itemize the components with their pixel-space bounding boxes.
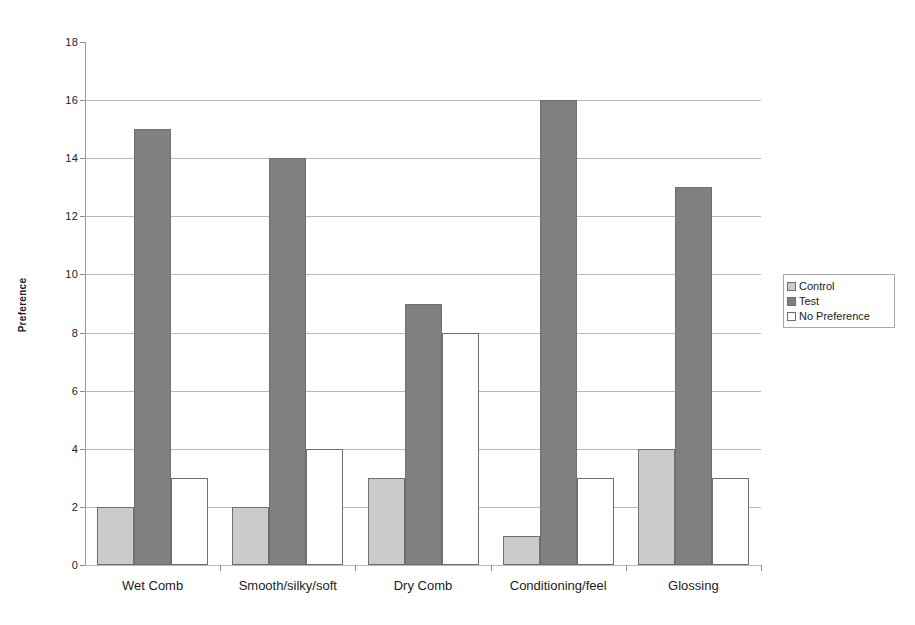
y-axis-tick-mark: [80, 565, 85, 566]
x-axis-tick-mark: [355, 565, 356, 571]
gridline: [85, 565, 761, 566]
x-axis-category-label: Conditioning/feel: [491, 578, 626, 593]
x-axis-category-label: Smooth/silky/soft: [220, 578, 355, 593]
bar: [171, 478, 208, 565]
bar: [134, 129, 171, 565]
x-axis-tick-mark: [491, 565, 492, 571]
y-axis-tick-mark: [80, 507, 85, 508]
legend-item: No Preference: [787, 309, 890, 323]
bar: [97, 507, 134, 565]
x-axis-tick-mark: [761, 565, 762, 571]
y-axis-tick-mark: [80, 158, 85, 159]
bar: [577, 478, 614, 565]
y-axis-tick-label: 4: [72, 443, 78, 455]
bar: [540, 100, 577, 565]
legend-item: Control: [787, 279, 890, 293]
bar: [638, 449, 675, 565]
bar: [269, 158, 306, 565]
y-axis-tick-mark: [80, 216, 85, 217]
y-axis-tick-mark: [80, 333, 85, 334]
y-axis-tick-label: 18: [65, 36, 78, 48]
x-axis-tick-mark: [220, 565, 221, 571]
y-axis-title: Preference: [17, 278, 28, 333]
legend-item-label: No Preference: [799, 310, 870, 322]
x-axis-category-label: Dry Comb: [355, 578, 490, 593]
bar: [712, 478, 749, 565]
gridline: [85, 274, 761, 275]
y-axis-tick-label: 12: [65, 210, 78, 222]
y-axis-tick-mark: [80, 449, 85, 450]
legend-item: Test: [787, 294, 890, 308]
y-axis-tick-label: 0: [72, 559, 78, 571]
x-axis-category-label: Glossing: [626, 578, 761, 593]
x-axis-category-label: Wet Comb: [85, 578, 220, 593]
bar-chart: 024681012141618 Wet CombSmooth/silky/sof…: [0, 0, 915, 625]
y-axis-tick-label: 14: [65, 152, 78, 164]
legend-item-label: Test: [799, 295, 819, 307]
bar: [503, 536, 540, 565]
legend-swatch-icon: [787, 312, 796, 321]
y-axis-tick-mark: [80, 100, 85, 101]
y-axis-tick-label: 8: [72, 327, 78, 339]
bar: [675, 187, 712, 565]
y-axis-tick-mark: [80, 42, 85, 43]
legend-item-label: Control: [799, 280, 834, 292]
y-axis-tick-label: 16: [65, 94, 78, 106]
y-axis-tick-mark: [80, 274, 85, 275]
bar: [232, 507, 269, 565]
x-axis-tick-mark: [626, 565, 627, 571]
y-axis-tick-label: 6: [72, 385, 78, 397]
bar: [442, 333, 479, 565]
gridline: [85, 100, 761, 101]
chart-legend: ControlTestNo Preference: [783, 274, 895, 328]
legend-swatch-icon: [787, 297, 796, 306]
y-axis-tick-label: 2: [72, 501, 78, 513]
gridline: [85, 158, 761, 159]
gridline: [85, 216, 761, 217]
bar: [306, 449, 343, 565]
legend-swatch-icon: [787, 282, 796, 291]
bar: [368, 478, 405, 565]
plot-area: [85, 42, 761, 565]
y-axis-tick-mark: [80, 391, 85, 392]
y-axis-tick-label: 10: [65, 268, 78, 280]
bar: [405, 304, 442, 566]
